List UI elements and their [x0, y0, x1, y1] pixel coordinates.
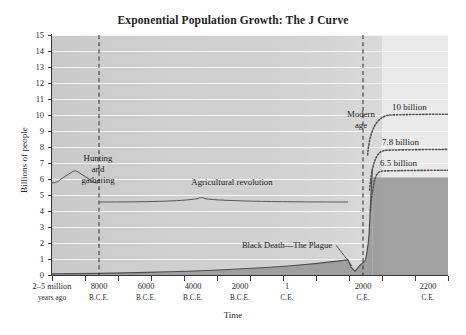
- x-axis-tick-mark: [118, 276, 119, 281]
- y-axis-tick-mark: [48, 67, 51, 68]
- y-axis-tick-mark: [48, 35, 51, 36]
- y-axis-tick-label: 6: [16, 175, 44, 184]
- chart-figure: Exponential Population Growth: The J Cur…: [0, 0, 466, 335]
- y-axis-line: [51, 34, 52, 276]
- y-axis-tick-label: 0: [16, 271, 44, 280]
- projection-area-fill: [373, 177, 449, 275]
- x-axis-tick-mark: [382, 276, 383, 281]
- x-axis-tick-label-sub: C.E.: [247, 293, 327, 304]
- y-axis-tick-mark: [48, 179, 51, 180]
- x-axis-tick-mark: [349, 276, 350, 281]
- x-axis-tick-label: 1C.E.: [247, 282, 327, 303]
- y-axis-tick-label: 15: [16, 31, 44, 40]
- x-axis-tick-mark: [448, 276, 449, 281]
- y-axis-tick-mark: [48, 211, 51, 212]
- y-axis-tick-mark: [48, 243, 51, 244]
- plot-area: Hunting and gathering Agricultural revol…: [52, 35, 448, 275]
- x-axis-tick-mark: [52, 276, 53, 281]
- y-axis-tick-mark: [48, 131, 51, 132]
- x-axis-tick-label-sub: C.E.: [388, 293, 466, 304]
- annotation-modern-line1: Modern: [347, 109, 375, 119]
- x-axis-tick-mark: [415, 276, 416, 281]
- y-axis-tick-mark: [48, 163, 51, 164]
- x-axis-tick-label: 2200C.E.: [388, 282, 466, 303]
- x-axis-tick-label-main: 2000: [355, 282, 372, 291]
- x-axis-tick-mark: [217, 276, 218, 281]
- x-axis-label: Time: [0, 310, 466, 320]
- annotation-hunting-line2: and: [92, 164, 105, 174]
- annotation-hunting-line1: Hunting: [84, 153, 113, 163]
- y-axis-tick-label: 7: [16, 159, 44, 168]
- annotation-modern-line2: age: [355, 120, 367, 130]
- x-axis-tick-label-main: 2000: [232, 282, 249, 291]
- x-axis-tick-mark: [184, 276, 185, 281]
- annotation-projection-65-billion: 6.5 billion: [380, 158, 417, 168]
- y-axis-tick-label: 4: [16, 207, 44, 216]
- y-axis-tick-label: 2: [16, 239, 44, 248]
- y-axis-tick-mark: [48, 99, 51, 100]
- x-axis-tick-mark: [283, 276, 284, 281]
- y-axis-tick-label: 5: [16, 191, 44, 200]
- annotation-hunting-and-gathering: Hunting and gathering: [60, 153, 136, 186]
- annotation-projection-10-billion: 10 billion: [392, 102, 427, 112]
- x-axis-tick-label-main: 4000: [185, 282, 202, 291]
- annotation-hunting-line3: gathering: [81, 175, 114, 185]
- annotation-agricultural-revolution: Agricultural revolution: [152, 177, 312, 187]
- annotation-black-death: Black Death—The Plague: [202, 240, 372, 250]
- y-axis-tick-mark: [48, 147, 51, 148]
- annotation-projection-78-billion: 7.8 billion: [382, 137, 419, 147]
- y-axis-tick-mark: [48, 195, 51, 196]
- x-axis-tick-mark: [151, 276, 152, 281]
- x-axis-tick-label-main: 8000: [91, 282, 108, 291]
- y-axis-tick-label: 13: [16, 63, 44, 72]
- y-axis-tick-label: 1: [16, 255, 44, 264]
- x-axis-tick-label-main: 2200: [420, 282, 437, 291]
- x-axis-tick-label-main: 1: [285, 282, 289, 291]
- annotation-modern-age: Modern age: [330, 109, 392, 130]
- y-axis-tick-label: 10: [16, 111, 44, 120]
- y-axis-tick-label: 14: [16, 47, 44, 56]
- y-axis-tick-mark: [48, 275, 51, 276]
- y-axis-tick-mark: [48, 227, 51, 228]
- x-axis-tick-mark: [250, 276, 251, 281]
- y-axis-tick-label: 12: [16, 79, 44, 88]
- y-axis-tick-label: 9: [16, 127, 44, 136]
- y-axis-tick-mark: [48, 51, 51, 52]
- y-axis-tick-mark: [48, 115, 51, 116]
- y-axis-tick-mark: [48, 259, 51, 260]
- y-axis-tick-label: 8: [16, 143, 44, 152]
- y-axis-tick-label: 11: [16, 95, 44, 104]
- chart-title: Exponential Population Growth: The J Cur…: [0, 14, 466, 26]
- x-axis-tick-label-main: 6000: [138, 282, 155, 291]
- x-axis-tick-mark: [85, 276, 86, 281]
- y-axis-tick-mark: [48, 83, 51, 84]
- x-axis-tick-mark: [316, 276, 317, 281]
- brace-agricultural-revolution: [100, 198, 348, 202]
- y-axis-tick-label: 3: [16, 223, 44, 232]
